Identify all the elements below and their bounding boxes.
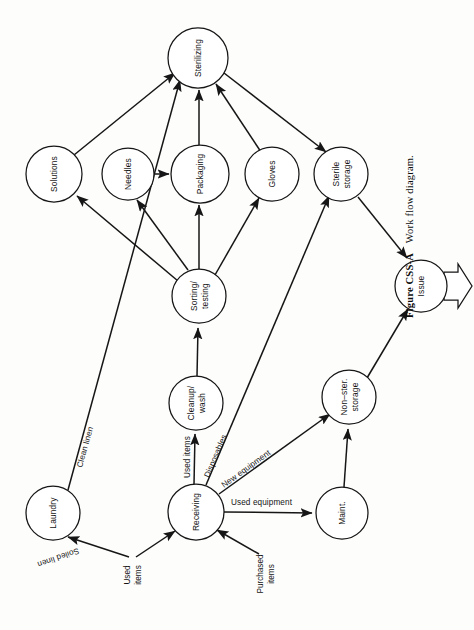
edge-gloves-to-sterilizing xyxy=(216,84,261,152)
node-label-non-ster-storage-line1: Non–ster. xyxy=(339,378,349,415)
edge-non-ster-storage-to-issue xyxy=(367,309,408,378)
node-label-needles: Needles xyxy=(123,158,133,190)
edge-sterilizing-to-sterile-storage xyxy=(224,73,326,152)
edge-label-used-equipment: Used equipment xyxy=(231,498,293,507)
node-maint[interactable]: Maint. xyxy=(316,487,368,539)
node-sterile-storage[interactable]: Sterile storage xyxy=(314,147,368,201)
edge-purchased-items-to-receiving xyxy=(217,530,259,554)
work-flow-diagram: Sterilizing Solutions Needles Packaging … xyxy=(0,0,474,630)
node-label-cleanup-wash-line2: wash xyxy=(197,393,207,414)
node-label-solutions: Solutions xyxy=(49,156,59,192)
node-non-ster-storage[interactable]: Non–ster. storage xyxy=(322,370,376,424)
edge-layer xyxy=(68,73,408,557)
scanned-page: Sterilizing Solutions Needles Packaging … xyxy=(0,0,474,630)
node-label-non-ster-storage-line2: storage xyxy=(350,382,360,411)
figure-caption: Figure CSS-A Work flow diagram. xyxy=(404,18,415,318)
edge-label-new-equipment: New equipment xyxy=(220,448,273,490)
figure-number: Figure CSS-A xyxy=(404,253,415,318)
node-label-gloves: Gloves xyxy=(267,161,277,188)
edge-cleanup-to-sorting xyxy=(197,328,198,376)
edge-solutions-to-sterilizing xyxy=(74,73,175,155)
edge-used-items-to-receiving xyxy=(136,531,175,557)
node-issue[interactable]: Issue xyxy=(395,260,447,312)
edge-label-clean-linen: Clean linen xyxy=(75,425,95,468)
node-label-sterile-storage-line1: Sterile xyxy=(331,161,341,186)
source-purchased-items-line1: Purchased xyxy=(256,554,265,594)
edge-receiving-to-maint xyxy=(224,512,312,513)
source-used-items-line1: Used xyxy=(123,565,132,585)
node-receiving[interactable]: Receiving xyxy=(168,484,224,540)
external-source-layer: Used items Purchased items xyxy=(123,554,276,594)
edge-sterile-storage-to-issue xyxy=(358,197,407,258)
edge-label-disposables: Disposables xyxy=(203,433,229,479)
node-label-issue: Issue xyxy=(416,275,426,296)
edge-sorting-to-solutions xyxy=(77,196,178,281)
edge-maint-to-non-ster-storage xyxy=(344,429,348,487)
node-label-laundry: Laundry xyxy=(48,497,58,529)
node-label-maint: Maint. xyxy=(337,501,347,525)
figure-caption-text: Work flow diagram. xyxy=(404,155,415,243)
node-layer: Sterilizing Solutions Needles Packaging … xyxy=(26,28,447,540)
source-purchased-items-line2: items xyxy=(267,564,276,584)
edge-receiving-to-cleanup xyxy=(194,434,195,484)
node-label-sorting-testing-line2: testing xyxy=(200,283,210,309)
node-label-sorting-testing-line1: Sorting/ xyxy=(189,280,199,311)
edge-label-soiled-linen: Soiled linen xyxy=(36,546,80,569)
node-label-receiving: Receiving xyxy=(191,493,201,531)
node-label-sterile-storage-line2: storage xyxy=(342,159,352,188)
issue-output-arrow-icon xyxy=(444,264,472,308)
edge-label-used-items: Used items xyxy=(183,436,192,478)
node-sorting-testing[interactable]: Sorting/ testing xyxy=(172,269,226,323)
source-used-items: Used items xyxy=(123,565,143,585)
node-gloves[interactable]: Gloves xyxy=(245,147,299,201)
source-used-items-line2: items xyxy=(134,565,143,585)
source-purchased-items: Purchased items xyxy=(256,554,276,594)
node-sterilizing[interactable]: Sterilizing xyxy=(168,28,228,88)
node-laundry[interactable]: Laundry xyxy=(26,486,80,540)
node-label-sterilizing: Sterilizing xyxy=(193,39,203,77)
node-needles[interactable]: Needles xyxy=(102,148,154,200)
node-label-cleanup-wash-line1: Cleanup/ xyxy=(186,385,196,420)
edge-sorting-to-gloves xyxy=(215,198,259,275)
node-label-packaging: Packaging xyxy=(195,154,205,195)
node-cleanup-wash[interactable]: Cleanup/ wash xyxy=(169,376,223,430)
node-solutions[interactable]: Solutions xyxy=(26,146,82,202)
node-packaging[interactable]: Packaging xyxy=(171,145,229,203)
